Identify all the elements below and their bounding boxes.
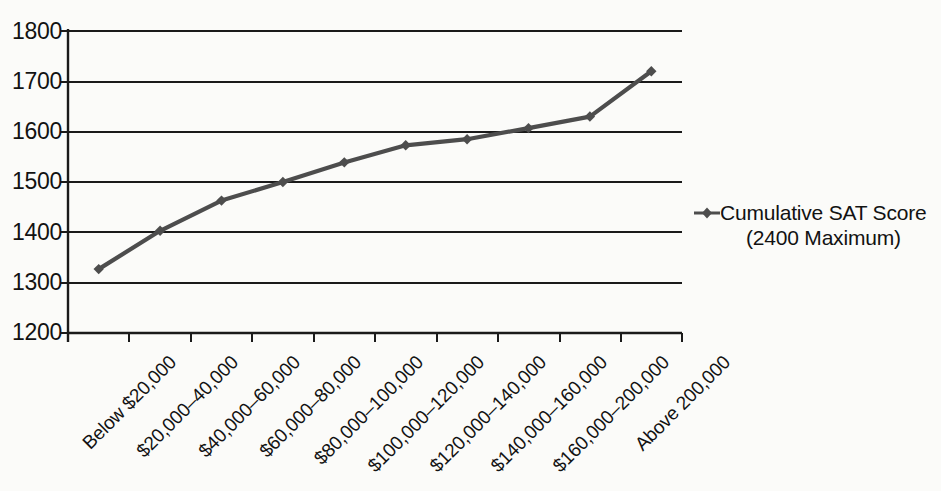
series-line-cumulative-sat-score (99, 71, 652, 269)
chart-container: 1800 1700 1600 1500 1400 1300 1200 (0, 0, 941, 491)
line-diamond-icon (694, 201, 720, 225)
data-point-marker (462, 134, 472, 144)
gridlines (68, 31, 682, 283)
series-markers (94, 66, 657, 274)
data-point-marker (339, 157, 349, 167)
data-point-marker (401, 140, 411, 150)
x-axis-ticks (68, 333, 682, 342)
chart-legend: Cumulative SAT Score (2400 Maximum) (694, 200, 934, 250)
legend-label-line2: (2400 Maximum) (746, 225, 926, 250)
data-point-marker (278, 177, 288, 187)
legend-label-line1: Cumulative SAT Score (720, 201, 926, 224)
legend-label: Cumulative SAT Score (2400 Maximum) (720, 200, 926, 250)
